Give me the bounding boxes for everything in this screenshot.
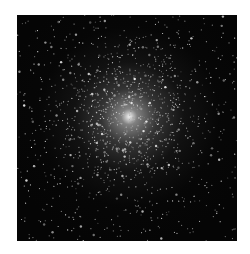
star-cluster-photo — [17, 15, 237, 241]
star-field — [17, 15, 237, 241]
